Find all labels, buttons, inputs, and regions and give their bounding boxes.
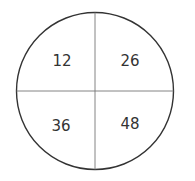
quadrant-bottom-right-value: 48: [120, 115, 139, 133]
quadrant-bottom-left-value: 36: [51, 117, 70, 135]
quadrant-top-left-value: 12: [52, 52, 71, 70]
quadrant-top-right-value: 26: [120, 52, 139, 70]
quadrant-circle-diagram: 12 26 36 48: [0, 0, 195, 181]
